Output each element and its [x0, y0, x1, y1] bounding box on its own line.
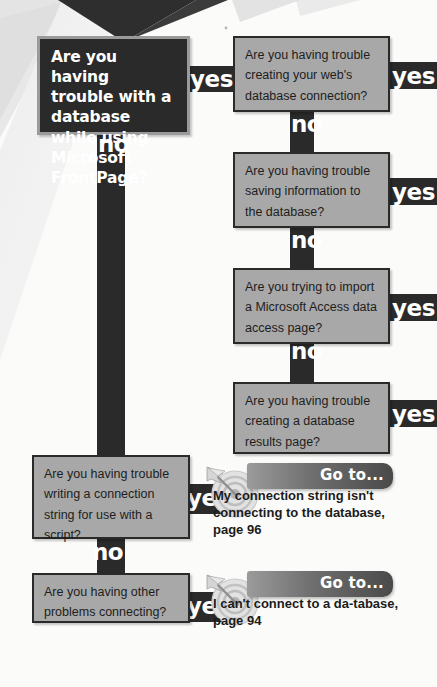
goto-block-1[interactable]: Go to... My connection string isn't conn… [205, 463, 435, 543]
edge-q1-yes-label: yes [392, 65, 435, 88]
paper-speck [225, 27, 228, 30]
node-q3-question[interactable]: Are you trying to import a Microsoft Acc… [233, 268, 390, 344]
top-right-grey-block [232, 0, 300, 22]
edge-q4-yes-label: yes [392, 403, 435, 426]
edge-root-yes-label: yes [190, 68, 233, 91]
edge-q5-no-label: no [92, 541, 123, 564]
top-right-grey-wedge [296, 0, 360, 16]
edge-q1-no-label: no [291, 113, 322, 136]
edge-q3-yes-label: yes [392, 297, 435, 320]
goto-block-2[interactable]: Go to... I can't connect to a da-tabase,… [205, 571, 435, 651]
flowchart-page: yes no yes no yes no yes no yes yes no y… [0, 0, 437, 687]
node-q1-question[interactable]: Are you having trouble creating your web… [233, 36, 390, 112]
node-q5-question[interactable]: Are you having trouble writing a connect… [32, 455, 190, 539]
node-root-question[interactable]: Are you having trouble with a database w… [37, 36, 190, 135]
goto-body-2[interactable]: I can't connect to a da-tabase, page 94 [213, 596, 413, 630]
edge-q2-yes-label: yes [392, 181, 435, 204]
goto-body-1[interactable]: My connection string isn't connecting to… [213, 488, 413, 539]
goto-banner-1: Go to... [247, 463, 393, 489]
node-q6-question[interactable]: Are you having other problems connecting… [32, 573, 190, 623]
node-q2-question[interactable]: Are you having trouble saving informatio… [233, 152, 390, 228]
node-q4-question[interactable]: Are you having trouble creating a databa… [233, 382, 390, 454]
goto-banner-label-2: Go to... [320, 574, 384, 592]
goto-banner-2: Go to... [247, 571, 393, 597]
goto-banner-label-1: Go to... [320, 466, 384, 484]
edge-q2-no-label: no [291, 229, 322, 252]
